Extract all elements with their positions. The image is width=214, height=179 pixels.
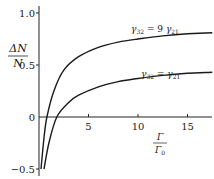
x-axis-label: Γ Γ0	[153, 132, 167, 156]
y-tick-label: 0	[29, 112, 35, 123]
y-tick-label: 1.0	[19, 8, 35, 19]
curves	[41, 33, 212, 169]
chart: 1.00.50−0.5 51015 ΔN N Γ Γ0 γ32 = 9 γ21 …	[0, 0, 214, 179]
x-label-numerator: Γ	[156, 132, 164, 142]
x-tick-label: 5	[85, 121, 91, 132]
series-label-lower: γ32 = γ21	[141, 69, 180, 80]
x-label-denominator: Γ0	[154, 145, 165, 156]
y-label-denominator: N	[12, 57, 23, 70]
series-label-upper: γ32 = 9 γ21	[131, 24, 179, 35]
curve-gamma32-eq-9gamma21	[41, 33, 212, 169]
x-tick-label: 15	[181, 121, 194, 132]
x-tick-label: 10	[132, 121, 145, 132]
y-ticks: 1.00.50−0.5	[11, 8, 39, 175]
y-tick-label: −0.5	[11, 164, 35, 175]
y-label-numerator: ΔN	[8, 42, 27, 55]
